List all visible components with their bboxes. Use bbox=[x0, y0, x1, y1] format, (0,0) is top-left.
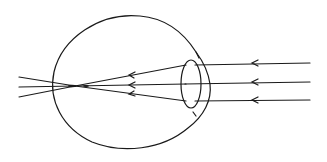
diverging-ray-middle bbox=[19, 86, 75, 87]
eyeball-outline bbox=[53, 16, 211, 149]
eye-ray-diagram: Eye ray diagram: parallel light rays foc… bbox=[0, 0, 327, 162]
arrow-icon bbox=[252, 60, 258, 66]
arrow-icon bbox=[252, 79, 258, 85]
diverging-ray-top bbox=[19, 86, 75, 97]
diverging-ray-bottom bbox=[19, 77, 75, 86]
focal-point bbox=[68, 85, 76, 87]
cornea-mark-bottom bbox=[193, 112, 196, 116]
incoming-ray-middle bbox=[185, 82, 310, 84]
focal-point-secondary bbox=[83, 85, 89, 87]
